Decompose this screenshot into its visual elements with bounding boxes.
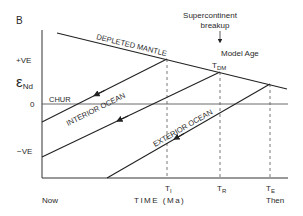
interior-ocean-lower-line xyxy=(42,72,220,157)
tdm-label: TDM xyxy=(212,61,226,71)
model-age-label: Model Age xyxy=(221,49,259,58)
te-tick-label: TE xyxy=(266,184,275,194)
arrow-icon xyxy=(96,90,105,95)
ti-tick-label: TI xyxy=(165,184,172,194)
positive-tick-label: +VE xyxy=(16,56,31,65)
diagram-canvas: B CHUR DEPLETED MANTLE INTERIOR OCEAN EX… xyxy=(0,0,303,216)
panel-label: B xyxy=(16,15,23,26)
depleted-mantle-line xyxy=(57,33,287,89)
breakup-label: breakup xyxy=(201,21,230,30)
zero-tick-label: 0 xyxy=(30,100,35,109)
arrow-icon xyxy=(119,116,128,120)
supercontinent-label: Supercontinent xyxy=(183,11,238,20)
then-label: Then xyxy=(266,196,284,205)
chur-label: CHUR xyxy=(49,95,71,104)
time-axis-title: TIME (Ma) xyxy=(134,196,185,205)
exterior-ocean-line xyxy=(107,84,270,178)
tr-tick-label: TR xyxy=(217,184,227,194)
interior-ocean-label: INTERIOR OCEAN xyxy=(65,91,127,128)
negative-tick-label: −VE xyxy=(17,147,32,156)
now-label: Now xyxy=(42,196,58,205)
exterior-ocean-label: EXTERIOR OCEAN xyxy=(152,107,215,148)
epsilon-symbol: εNd xyxy=(16,73,33,91)
